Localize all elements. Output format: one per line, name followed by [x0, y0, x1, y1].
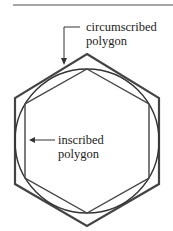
- circumscribed-arrowhead-icon: [61, 58, 67, 65]
- circumscribed-label-line1: circumscribed: [86, 21, 157, 34]
- inscribed-label-line2: polygon: [58, 148, 99, 161]
- inscribed-arrowhead-icon: [29, 137, 35, 143]
- circumscribed-label-line2: polygon: [86, 35, 127, 48]
- circumscribed-arrow-line: [64, 27, 80, 60]
- inscribed-label-line1: inscribed: [58, 134, 104, 147]
